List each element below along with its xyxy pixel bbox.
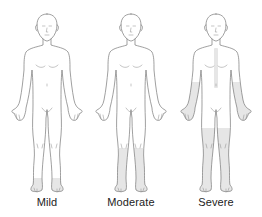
severity-label-moderate: Moderate — [89, 196, 173, 208]
body-diagram-severe — [174, 10, 258, 195]
severity-label-mild: Mild — [5, 196, 89, 208]
body-diagram-moderate — [89, 10, 173, 195]
shaded-lower-legs-and-feet — [115, 148, 147, 192]
figure-mild — [5, 10, 89, 195]
body-diagram-mild — [5, 10, 89, 195]
severity-label-severe: Severe — [174, 196, 258, 208]
figure-moderate — [89, 10, 173, 195]
shaded-feet — [31, 178, 63, 192]
shaded-central-torso — [214, 48, 218, 88]
shaded-legs-and-feet — [200, 128, 232, 192]
figure-severe — [174, 10, 258, 195]
